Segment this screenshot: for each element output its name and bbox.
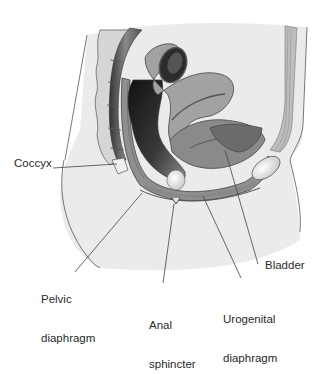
label-pelvic-diaphragm-line2: diaphragm — [41, 332, 95, 345]
label-urogenital-diaphragm-line2: diaphragm — [223, 352, 277, 365]
label-anal-sphincter-line2: sphincter — [149, 358, 196, 371]
label-anal-sphincter: Anal sphincter — [149, 293, 196, 374]
label-pelvic-diaphragm-line1: Pelvic — [41, 293, 95, 306]
label-anal-sphincter-line1: Anal — [149, 319, 196, 332]
ischial-bone — [167, 170, 185, 190]
label-urogenital-diaphragm-line1: Urogenital — [223, 313, 277, 326]
label-bladder: Bladder — [265, 259, 305, 272]
label-coccyx: Coccyx — [14, 157, 52, 170]
label-urogenital-diaphragm: Urogenital diaphragm — [223, 287, 277, 374]
label-pelvic-diaphragm: Pelvic diaphragm — [41, 267, 95, 358]
